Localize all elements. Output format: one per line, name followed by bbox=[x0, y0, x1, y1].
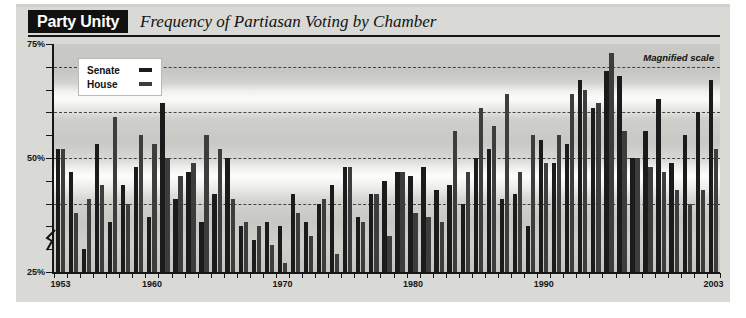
x-tick bbox=[433, 273, 434, 278]
y-axis-label: 75% bbox=[27, 39, 45, 49]
x-tick bbox=[563, 273, 564, 278]
x-axis-label: 1990 bbox=[534, 279, 554, 289]
figure-panel: Party Unity Frequency of Partiasan Votin… bbox=[16, 4, 730, 302]
x-axis-label: 2003 bbox=[703, 279, 723, 289]
x-tick bbox=[106, 273, 107, 278]
bar-senate-1987 bbox=[500, 199, 504, 272]
bar-house-1985 bbox=[479, 108, 483, 272]
bar-house-2001 bbox=[688, 204, 692, 272]
bar-senate-1971 bbox=[291, 194, 295, 272]
x-tick bbox=[616, 273, 617, 278]
bar-senate-1977 bbox=[369, 194, 373, 272]
x-tick bbox=[642, 273, 643, 278]
bar-senate-1954 bbox=[69, 172, 73, 272]
bar-house-1956 bbox=[100, 185, 104, 272]
bar-senate-1989 bbox=[526, 226, 530, 272]
chart-header: Party Unity Frequency of Partiasan Votin… bbox=[28, 10, 720, 36]
bar-house-1982 bbox=[440, 222, 444, 272]
x-tick bbox=[446, 273, 447, 278]
bar-senate-1972 bbox=[304, 222, 308, 272]
chart-title: Frequency of Partiasan Voting by Chamber bbox=[140, 10, 436, 33]
bar-house-1981 bbox=[426, 217, 430, 272]
top-edge-shade bbox=[16, 4, 730, 7]
x-tick bbox=[550, 273, 551, 278]
bar-house-1995 bbox=[609, 53, 613, 272]
bar-house-1969 bbox=[270, 245, 274, 272]
x-tick bbox=[511, 273, 512, 278]
bar-senate-1960 bbox=[147, 217, 151, 272]
y-tick bbox=[46, 112, 53, 113]
x-tick bbox=[185, 273, 186, 278]
plot-area: Senate House Magnified scale bbox=[54, 44, 720, 272]
bar-house-1975 bbox=[348, 167, 352, 272]
x-tick bbox=[341, 273, 342, 278]
x-axis-line bbox=[52, 272, 720, 274]
x-tick bbox=[537, 273, 538, 278]
bar-house-1998 bbox=[648, 167, 652, 272]
y-tick bbox=[46, 158, 53, 159]
bar-house-1957 bbox=[113, 117, 117, 272]
bar-house-1959 bbox=[139, 135, 143, 272]
x-tick bbox=[472, 273, 473, 278]
x-tick bbox=[276, 273, 277, 278]
legend-item-senate: Senate bbox=[87, 63, 152, 77]
bar-senate-1980 bbox=[408, 176, 412, 272]
bar-house-1962 bbox=[178, 176, 182, 272]
bar-house-1977 bbox=[374, 194, 378, 272]
x-axis-label: 1953 bbox=[51, 279, 71, 289]
bar-senate-1979 bbox=[395, 172, 399, 272]
x-tick bbox=[720, 273, 721, 278]
x-tick bbox=[93, 273, 94, 278]
bar-senate-1985 bbox=[474, 158, 478, 272]
bar-house-1993 bbox=[583, 90, 587, 272]
x-tick bbox=[655, 273, 656, 278]
y-tick bbox=[46, 90, 53, 91]
bar-house-1960 bbox=[152, 144, 156, 272]
x-tick bbox=[694, 273, 695, 278]
bar-house-1984 bbox=[466, 172, 470, 272]
bar-senate-1955 bbox=[82, 249, 86, 272]
x-tick bbox=[145, 273, 146, 278]
x-tick bbox=[498, 273, 499, 278]
bar-house-1989 bbox=[531, 135, 535, 272]
bar-house-1996 bbox=[622, 131, 626, 272]
bar-senate-1998 bbox=[643, 131, 647, 272]
y-axis-label: 25% bbox=[27, 267, 45, 277]
bar-senate-1973 bbox=[317, 204, 321, 272]
bar-senate-1967 bbox=[239, 226, 243, 272]
x-tick bbox=[485, 273, 486, 278]
y-tick bbox=[46, 67, 53, 68]
bar-house-1973 bbox=[322, 199, 326, 272]
x-tick bbox=[328, 273, 329, 278]
x-tick bbox=[459, 273, 460, 278]
axis-break-icon bbox=[44, 229, 62, 251]
legend-swatch-house bbox=[139, 82, 152, 86]
series-banner-label: Party Unity bbox=[28, 10, 128, 33]
magnified-scale-annotation: Magnified scale bbox=[643, 52, 714, 63]
bar-house-1994 bbox=[596, 103, 600, 272]
bar-senate-1974 bbox=[330, 185, 334, 272]
bar-house-1963 bbox=[191, 163, 195, 272]
bar-senate-1969 bbox=[265, 222, 269, 272]
bar-house-1955 bbox=[87, 199, 91, 272]
x-tick bbox=[602, 273, 603, 278]
bar-house-1991 bbox=[557, 135, 561, 272]
bar-senate-1957 bbox=[108, 222, 112, 272]
x-tick bbox=[394, 273, 395, 278]
bar-senate-1991 bbox=[552, 163, 556, 272]
bar-senate-1962 bbox=[173, 199, 177, 272]
x-tick bbox=[263, 273, 264, 278]
bar-house-1992 bbox=[570, 94, 574, 272]
bar-house-1954 bbox=[74, 213, 78, 272]
bar-house-1974 bbox=[335, 254, 339, 272]
plot-wrapper: Senate House Magnified scale 75%50%25% bbox=[54, 44, 720, 289]
bar-house-1978 bbox=[387, 236, 391, 272]
bar-house-1976 bbox=[361, 222, 365, 272]
bar-senate-1958 bbox=[121, 185, 125, 272]
x-tick bbox=[407, 273, 408, 278]
bar-senate-2002 bbox=[696, 112, 700, 272]
x-tick bbox=[707, 273, 708, 278]
bar-senate-1961 bbox=[160, 103, 164, 272]
x-axis-label: 1960 bbox=[142, 279, 162, 289]
bar-house-1967 bbox=[244, 222, 248, 272]
